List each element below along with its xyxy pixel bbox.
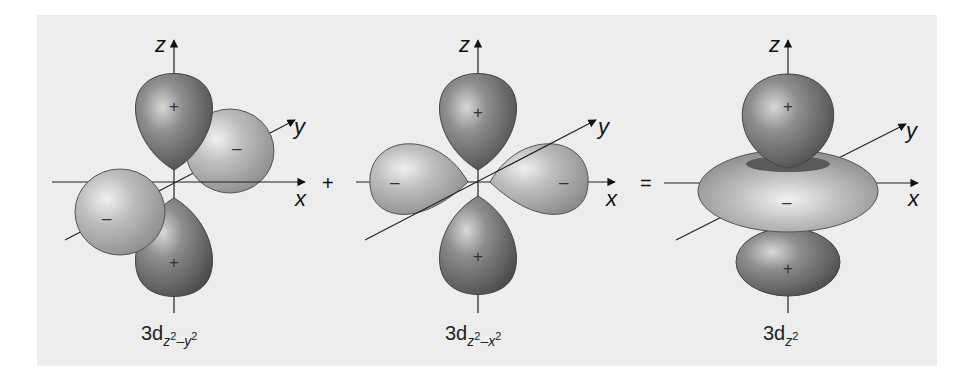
sign-negative: –: [559, 173, 569, 192]
plus-operator: +: [322, 172, 334, 194]
caption-sup: 2: [792, 330, 798, 342]
sign-positive: +: [473, 103, 483, 122]
caption-3dz2-x2: 3dz2–x2: [445, 322, 501, 345]
y-axis-label: y: [292, 114, 307, 139]
orbital-panel-3: + – + z y x: [664, 32, 920, 313]
caption-main: 3d: [141, 322, 163, 344]
sign-negative: –: [102, 209, 112, 228]
sign-positive: +: [783, 259, 793, 278]
z-axis-label: z: [154, 32, 166, 57]
y-axis-label: y: [596, 114, 611, 139]
caption-sup: 2: [495, 330, 501, 342]
negative-lobe: [75, 169, 165, 255]
negative-lobe: [490, 144, 588, 215]
sign-positive: +: [169, 253, 179, 272]
caption-sub: –x: [480, 333, 495, 349]
sign-negative: –: [390, 173, 400, 192]
sign-negative: –: [232, 139, 242, 158]
caption-sub: –y: [176, 333, 191, 349]
sign-positive: +: [169, 97, 179, 116]
negative-lobe: [370, 144, 468, 215]
x-axis-label: x: [294, 186, 307, 211]
sign-negative: –: [782, 193, 792, 212]
x-axis-label: x: [907, 186, 920, 211]
sign-positive: +: [473, 247, 483, 266]
positive-lobe: [439, 196, 516, 295]
z-axis-label: z: [458, 32, 470, 57]
sign-positive: +: [783, 97, 793, 116]
y-axis-label: y: [904, 118, 919, 143]
z-axis-label: z: [768, 32, 780, 57]
x-axis-label: x: [605, 186, 618, 211]
caption-sup: 2: [170, 330, 176, 342]
equals-operator: =: [640, 172, 652, 194]
caption-3dz2: 3dz2: [763, 322, 798, 345]
caption-sup: 2: [191, 330, 197, 342]
caption-sup: 2: [474, 330, 480, 342]
caption-main: 3d: [445, 322, 467, 344]
caption-3dz2-y2: 3dz2–y2: [141, 322, 197, 345]
orbital-panel-1: + – – + z y x: [52, 32, 307, 313]
caption-main: 3d: [763, 322, 785, 344]
orbital-panel-2: + – – + z y x: [356, 32, 618, 313]
